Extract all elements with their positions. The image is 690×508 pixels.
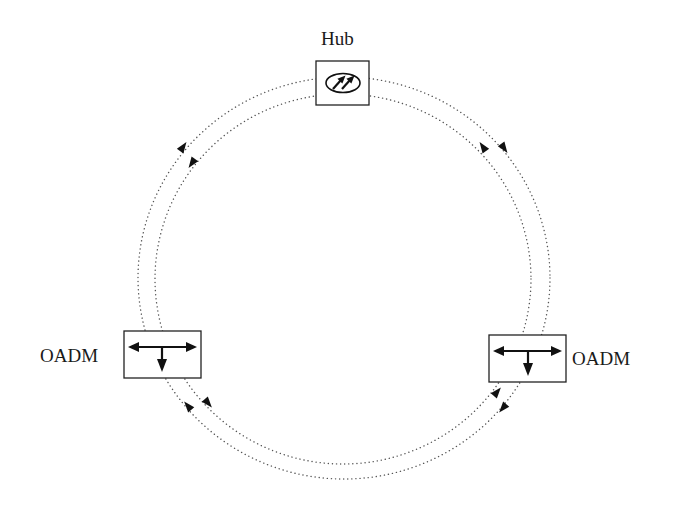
arrow-inner-top-right-icon bbox=[476, 140, 489, 154]
arrow-outer-top-right-icon bbox=[498, 142, 511, 156]
arrow-inner-bottom-right-icon bbox=[491, 385, 504, 399]
ring-network-diagram bbox=[0, 0, 690, 508]
arrow-inner-top-left-icon bbox=[185, 157, 198, 171]
inner-ring bbox=[155, 94, 531, 464]
hub-label: Hub bbox=[321, 28, 354, 50]
oadm-left-node bbox=[124, 331, 201, 378]
oadm-right-label: OADM bbox=[572, 348, 630, 370]
direction-arrows bbox=[177, 140, 511, 415]
oadm-right-node bbox=[489, 335, 566, 382]
hub-node bbox=[316, 61, 369, 105]
arrow-outer-bottom-right-icon bbox=[496, 402, 509, 416]
oadm-left-label: OADM bbox=[40, 345, 98, 367]
outer-ring bbox=[138, 77, 550, 479]
arrow-outer-bottom-left-icon bbox=[181, 399, 194, 413]
